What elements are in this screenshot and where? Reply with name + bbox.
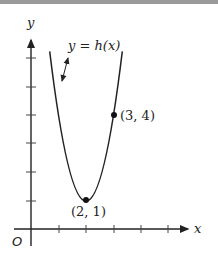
point-label-3-4: (3, 4): [120, 108, 155, 123]
graph: y x O y = h(x) (2, 1) (3, 4): [0, 0, 218, 259]
origin-label: O: [12, 234, 22, 249]
curve-label: y = h(x): [67, 38, 120, 53]
parabola-curve: [50, 51, 123, 201]
y-axis-label: y: [26, 15, 35, 30]
vertex-label: (2, 1): [71, 204, 106, 219]
x-axis-label: x: [194, 221, 202, 236]
vertex-point: [83, 197, 89, 203]
point-3-4: [111, 112, 117, 118]
label-pointer-arrow: [62, 58, 68, 81]
